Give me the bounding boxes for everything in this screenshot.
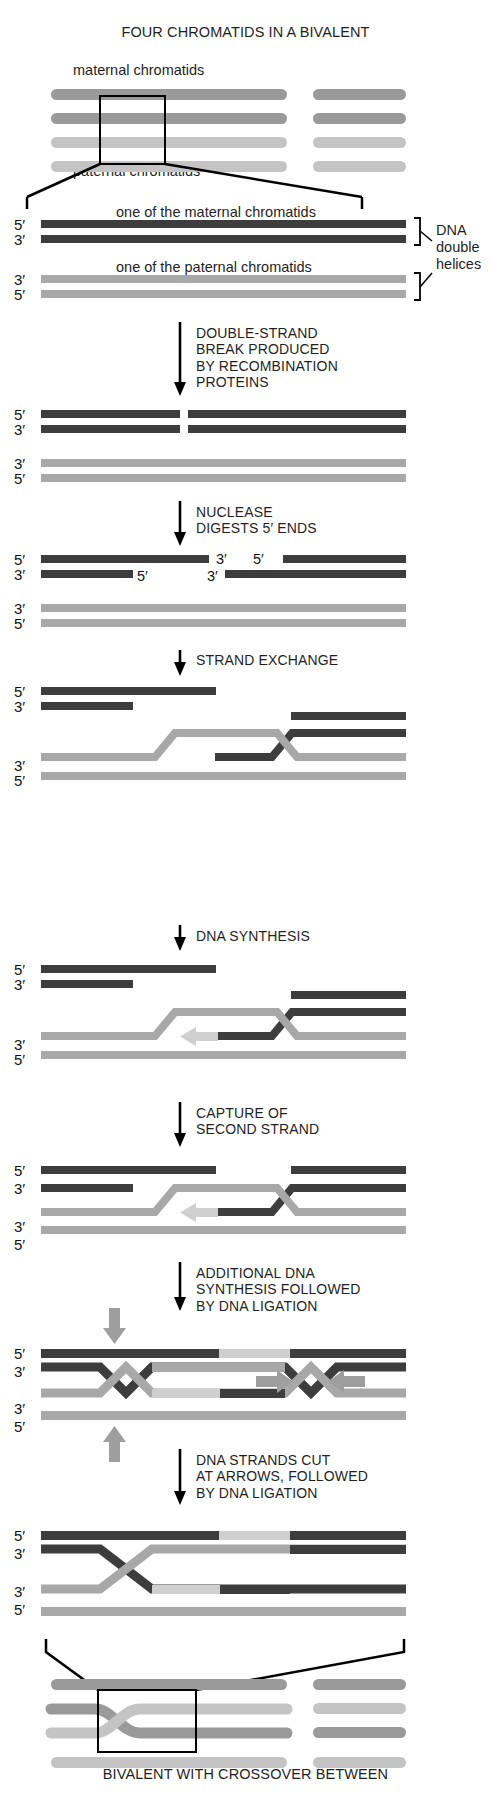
panel-bivalent-bottom <box>51 1679 406 1768</box>
panel-after-strand-exchange <box>41 687 406 780</box>
hj-inner-lower-new <box>152 1389 220 1398</box>
bracket-maternal-duplex <box>414 218 420 245</box>
paternal-left-arm-3 <box>41 1208 141 1216</box>
new-synthesis-arrow-1 <box>180 1027 218 1046</box>
exchange-maternal-bottom <box>41 702 133 710</box>
resolved-dark-descending <box>41 1549 406 1589</box>
diagram-artwork <box>0 0 491 1803</box>
paternal-strand-bottom-3 <box>41 619 406 627</box>
resolved-exchanged-lower-dark <box>220 1585 290 1594</box>
strand-paternal-bottom <box>41 290 406 298</box>
process-arrow-capture <box>174 1102 186 1147</box>
strand-maternal-top <box>41 220 406 228</box>
magnifier-box-top <box>100 96 165 164</box>
chromatid-bottom-4 <box>51 1757 406 1768</box>
resected-top-right <box>283 555 406 563</box>
paternal-strand-bottom-2 <box>41 474 406 482</box>
capture-maternal-bottom-left <box>41 1184 133 1192</box>
panel-bivalent-top <box>27 89 406 209</box>
strand-maternal-bottom <box>41 235 406 243</box>
panel-after-dna-synthesis <box>41 965 406 1059</box>
synthesis-maternal-top <box>41 965 216 973</box>
resolved-exchanged-lower-new <box>152 1585 220 1594</box>
new-synthesis-arrow-2 <box>180 1203 218 1222</box>
resolved-light-ascending <box>41 1549 406 1589</box>
resolved-exchanged-upper-dark <box>290 1545 406 1554</box>
hj-inner-upper-light <box>152 1363 285 1372</box>
hj-top-strand-new <box>219 1349 290 1358</box>
exchange-maternal-right-top <box>291 712 406 720</box>
panel-after-resection <box>41 555 406 627</box>
process-arrow-strand-exchange <box>174 650 186 676</box>
panel-two-duplexes <box>41 218 432 300</box>
chromatid-maternal-1 <box>51 89 406 100</box>
resolved-top-strand-right <box>290 1531 406 1540</box>
bracket-connector-upper <box>420 231 432 241</box>
chromatid-paternal-1 <box>51 137 406 148</box>
hj-bottom-strand <box>41 1411 406 1420</box>
chromatid-paternal-2 <box>51 161 406 172</box>
broken-strand-bottom-right <box>188 425 406 433</box>
resolved-top-strand-left <box>41 1531 219 1540</box>
chromatid-maternal-2 <box>51 113 406 124</box>
process-arrow-nuclease <box>174 501 186 546</box>
paternal-strand-top-3 <box>41 604 406 612</box>
bracket-connector-lower <box>420 273 432 287</box>
process-arrow-double-strand-break <box>174 322 186 396</box>
resolved-top-strand-new <box>219 1531 290 1540</box>
capture-maternal-top-right <box>291 1166 406 1174</box>
paternal-intact-bottom-1 <box>41 772 406 780</box>
panel-double-holliday-junction <box>41 1308 406 1462</box>
broken-strand-top-left <box>41 410 180 418</box>
paternal-strand-top-2 <box>41 459 406 467</box>
synthesis-maternal-bottom <box>41 980 133 988</box>
resected-bottom-right <box>225 570 406 578</box>
exchange-maternal-top <box>41 687 216 695</box>
panel-second-strand-capture <box>41 1166 406 1234</box>
process-arrow-strands-cut <box>174 1449 186 1505</box>
broken-strand-top-right <box>188 410 406 418</box>
hj-top-strand-right <box>290 1349 406 1358</box>
panel-after-break <box>41 410 406 482</box>
hj-top-strand-left <box>41 1349 219 1358</box>
process-arrow-dna-synthesis <box>174 925 186 951</box>
panel-resolved-crossover <box>41 1531 406 1690</box>
resected-top-left <box>41 555 209 563</box>
process-arrow-additional-synthesis <box>174 1262 186 1311</box>
chromatid-bottom-1 <box>51 1679 406 1690</box>
paternal-intact-bottom-2 <box>41 1051 406 1059</box>
recombination-figure: FOUR CHROMATIDS IN A BIVALENT maternal c… <box>0 0 491 1803</box>
resolved-bottom-strand <box>41 1607 406 1616</box>
bracket-paternal-duplex <box>414 273 420 300</box>
cut-arrow-bottom-left <box>103 1426 126 1462</box>
synthesis-maternal-right-top <box>291 991 406 999</box>
paternal-intact-bottom-3 <box>41 1226 406 1234</box>
hj-inner-lower-dark <box>220 1389 285 1398</box>
cut-arrow-top-left <box>103 1308 126 1344</box>
resected-bottom-left <box>41 570 133 578</box>
strand-paternal-top <box>41 275 406 283</box>
capture-maternal-top-left <box>41 1166 216 1174</box>
broken-strand-bottom-left <box>41 425 180 433</box>
